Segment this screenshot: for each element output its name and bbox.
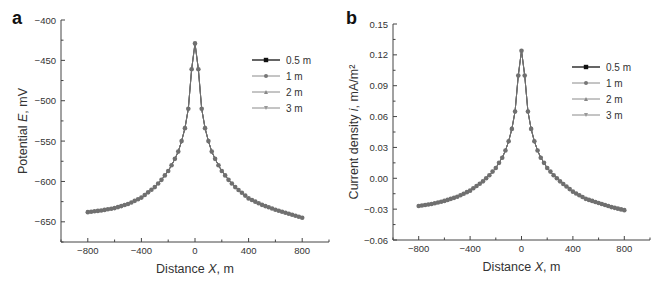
series-line bbox=[419, 51, 625, 210]
x-tick-label: 800 bbox=[616, 243, 632, 254]
y-tick-label: 0.00 bbox=[370, 173, 389, 184]
legend-label: 3 m bbox=[606, 110, 623, 121]
series-line bbox=[88, 43, 302, 217]
x-tick-label: −400 bbox=[131, 245, 152, 256]
y-tick-label: −400 bbox=[35, 15, 56, 26]
series-line bbox=[88, 43, 302, 217]
y-tick-label: −650 bbox=[35, 216, 56, 227]
y-tick-label: −600 bbox=[35, 176, 56, 187]
y-tick-label: −550 bbox=[35, 136, 56, 147]
axes: 0.150.120.090.060.030.00−0.03−0.06−800−4… bbox=[347, 19, 650, 275]
y-tick-label: 0.06 bbox=[370, 111, 389, 122]
legend-entry: 3 m bbox=[252, 103, 303, 114]
legend: 0.5 m1 m2 m3 m bbox=[572, 62, 631, 121]
x-tick-label: 0 bbox=[192, 245, 197, 256]
x-tick-label: 400 bbox=[565, 243, 581, 254]
y-axis-title: Current density i, mA/m² bbox=[347, 65, 361, 200]
y-tick-label: −500 bbox=[35, 95, 56, 106]
x-axis-title: Distance X, m bbox=[156, 262, 234, 276]
legend-entry: 1 m bbox=[572, 78, 623, 89]
x-tick-label: 800 bbox=[294, 245, 310, 256]
series-line bbox=[88, 43, 302, 217]
data-markers bbox=[86, 41, 305, 220]
legend-label: 1 m bbox=[606, 78, 623, 89]
series-line bbox=[419, 51, 625, 210]
legend-entry: 2 m bbox=[252, 87, 303, 98]
x-tick-label: −800 bbox=[77, 245, 98, 256]
panel-a-potential-chart: a −400−450−500−550−600−650−800−400040080… bbox=[0, 0, 335, 283]
y-tick-label: −0.06 bbox=[364, 235, 388, 246]
y-tick-label: 0.09 bbox=[370, 80, 389, 91]
legend-entry: 1 m bbox=[252, 71, 303, 82]
data-markers bbox=[416, 48, 626, 212]
axes: −400−450−500−550−600−650−800−4000400800D… bbox=[16, 15, 329, 277]
legend: 0.5 m1 m2 m3 m bbox=[252, 55, 311, 114]
y-tick-label: 0.15 bbox=[370, 19, 389, 30]
x-axis-title: Distance X, m bbox=[483, 260, 561, 274]
y-tick-label: 0.03 bbox=[370, 142, 389, 153]
x-tick-label: 0 bbox=[519, 243, 524, 254]
potential-plot: −400−450−500−550−600−650−800−4000400800D… bbox=[0, 0, 335, 283]
legend-entry: 3 m bbox=[572, 110, 623, 121]
legend-label: 3 m bbox=[286, 103, 303, 114]
legend-label: 1 m bbox=[286, 71, 303, 82]
y-tick-label: 0.12 bbox=[370, 49, 389, 60]
series-line bbox=[88, 43, 302, 217]
current-density-plot: 0.150.120.090.060.030.00−0.03−0.06−800−4… bbox=[335, 0, 670, 283]
y-axis-title: Potential E, mV bbox=[16, 87, 30, 174]
legend-label: 0.5 m bbox=[606, 62, 631, 73]
legend-entry: 0.5 m bbox=[252, 55, 311, 66]
x-tick-label: 400 bbox=[241, 245, 257, 256]
x-tick-label: −400 bbox=[459, 243, 480, 254]
x-tick-label: −800 bbox=[408, 243, 429, 254]
legend-label: 2 m bbox=[606, 94, 623, 105]
legend-entry: 2 m bbox=[572, 94, 623, 105]
series-line bbox=[419, 51, 625, 210]
series-group bbox=[88, 43, 302, 217]
panel-b-current-density-chart: b 0.150.120.090.060.030.00−0.03−0.06−800… bbox=[335, 0, 670, 283]
y-tick-label: −450 bbox=[35, 55, 56, 66]
y-tick-label: −0.03 bbox=[364, 204, 388, 215]
legend-label: 2 m bbox=[286, 87, 303, 98]
series-line bbox=[419, 51, 625, 210]
legend-entry: 0.5 m bbox=[572, 62, 631, 73]
series-group bbox=[419, 51, 625, 210]
legend-label: 0.5 m bbox=[286, 55, 311, 66]
